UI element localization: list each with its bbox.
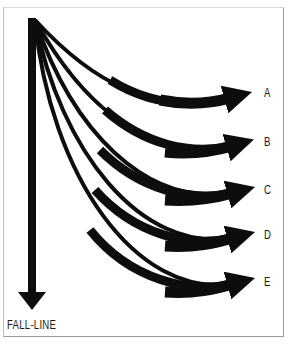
- path-label-e: E: [264, 275, 271, 289]
- fall-line-label: FALL-LINE: [7, 318, 56, 332]
- path-label-c: C: [264, 183, 271, 197]
- path-label-d: D: [264, 228, 271, 242]
- path-label-b: B: [264, 135, 271, 149]
- fall-line-diagram: [0, 0, 293, 347]
- path-label-a: A: [264, 86, 271, 100]
